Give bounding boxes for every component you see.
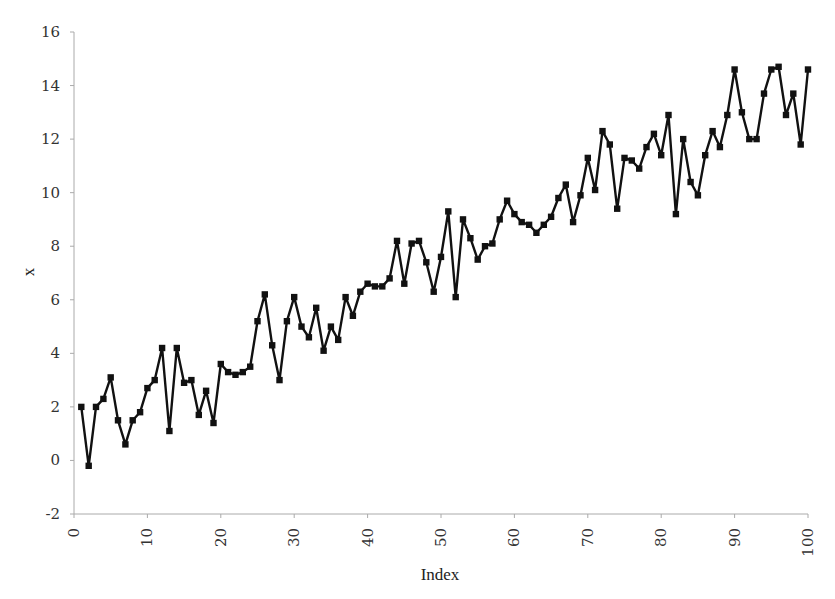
x-tick-label: 20 [212,528,230,547]
data-point [482,243,488,249]
data-point [350,313,356,319]
data-point [284,318,290,324]
data-point [291,294,297,300]
data-point [805,66,811,72]
data-point [438,254,444,260]
line-chart: -20246810121416 0102030405060708090100 I… [0,0,835,599]
data-point [342,294,348,300]
data-point [379,283,385,289]
data-point [328,323,334,329]
data-point [775,64,781,70]
data-point [364,281,370,287]
data-point [78,404,84,410]
data-point [746,136,752,142]
data-point [665,112,671,118]
data-point [218,361,224,367]
data-point [717,144,723,150]
data-point [320,348,326,354]
data-point [577,192,583,198]
data-point [592,187,598,193]
data-point [313,305,319,311]
data-point [174,345,180,351]
y-tick-label: -2 [45,505,60,523]
data-point [254,318,260,324]
data-point [695,192,701,198]
x-tick-label: 60 [505,528,523,547]
data-point [643,144,649,150]
y-tick-label: 2 [50,398,60,416]
x-axis-ticks: 0102030405060708090100 [65,514,817,557]
data-point [137,409,143,415]
data-point [276,377,282,383]
data-point [570,219,576,225]
data-point [166,428,172,434]
x-tick-label: 50 [432,528,450,547]
data-point [467,235,473,241]
y-tick-label: 8 [50,237,60,255]
data-point [658,152,664,158]
data-point [453,294,459,300]
x-axis-title: Index [421,565,460,584]
data-point [504,198,510,204]
data-point [731,66,737,72]
data-point [247,364,253,370]
data-point [548,214,554,220]
x-tick-label: 10 [138,528,156,547]
data-point [335,337,341,343]
data-point [724,112,730,118]
data-point [115,417,121,423]
data-point [768,66,774,72]
data-point [159,345,165,351]
data-point [240,369,246,375]
data-point [100,396,106,402]
data-point [519,219,525,225]
y-tick-label: 10 [41,184,60,202]
y-tick-label: 4 [50,344,60,362]
data-point [607,141,613,147]
data-point [475,256,481,262]
data-point [122,441,128,447]
data-point [511,211,517,217]
series-line [81,67,808,466]
y-tick-label: 12 [41,130,60,148]
data-point [739,109,745,115]
x-tick-label: 30 [285,528,303,547]
data-point [401,281,407,287]
data-point [306,334,312,340]
data-point [533,230,539,236]
x-tick-label: 100 [799,528,817,557]
data-point [196,412,202,418]
y-tick-label: 6 [50,291,60,309]
data-point [144,385,150,391]
data-point [416,238,422,244]
data-point [262,291,268,297]
data-point [651,131,657,137]
data-point [298,323,304,329]
data-point [188,377,194,383]
data-point [753,136,759,142]
data-point [431,289,437,295]
data-point [621,155,627,161]
y-axis-ticks: -20246810121416 [41,23,74,523]
data-point [232,372,238,378]
data-point [702,152,708,158]
data-point [614,206,620,212]
x-tick-label: 80 [652,528,670,547]
data-point [599,128,605,134]
data-point [86,463,92,469]
data-point [555,195,561,201]
data-point [225,369,231,375]
data-point [357,289,363,295]
data-point [541,222,547,228]
data-point [130,417,136,423]
data-point [181,380,187,386]
data-point [423,259,429,265]
data-point [680,136,686,142]
data-point [673,211,679,217]
data-point [460,216,466,222]
x-tick-label: 70 [579,528,597,547]
data-point [394,238,400,244]
data-point [563,181,569,187]
x-tick-label: 0 [65,528,83,538]
y-axis-title: x [19,267,38,276]
